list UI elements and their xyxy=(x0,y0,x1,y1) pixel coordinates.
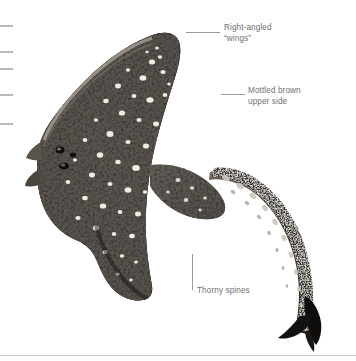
ray-tail xyxy=(200,160,325,352)
callout-right-angled-wings: Right-angled “wings” xyxy=(224,23,272,44)
leader-line-mottled-brown-upper-side xyxy=(221,94,245,95)
callout-mottled-brown-upper-side: Mottled brown upper side xyxy=(248,86,301,107)
leader-line-thorny-spines xyxy=(192,254,193,290)
edge-tick-1 xyxy=(0,25,13,27)
callout-thorny-spines: Thorny spines xyxy=(197,286,250,297)
edge-tick-4 xyxy=(0,94,13,96)
footer-rule xyxy=(0,355,356,356)
edge-tick-5 xyxy=(0,123,13,125)
edge-tick-3 xyxy=(0,68,13,70)
ray-figure: Right-angled “wings” Mottled brown upper… xyxy=(0,0,356,361)
edge-tick-2 xyxy=(0,51,13,53)
thornback-ray-illustration xyxy=(0,0,356,361)
leader-line-right-angled-wings xyxy=(186,32,220,33)
